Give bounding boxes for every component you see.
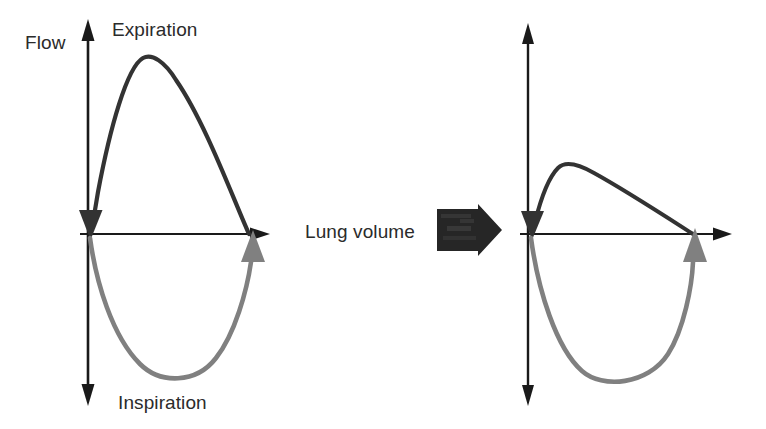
arrow-up-icon	[522, 23, 534, 44]
left-panel-normal-loop	[79, 19, 270, 406]
x-axis-label-lung-volume: Lung volume	[305, 222, 415, 241]
arrow-up-icon	[82, 19, 95, 41]
arrow-down-icon	[82, 384, 95, 406]
transition-arrow-icon	[437, 204, 502, 256]
arrow-down-icon	[522, 385, 534, 406]
expiration-label: Expiration	[112, 20, 198, 39]
y-axis-label-flow: Flow	[25, 33, 66, 52]
arrow-right-icon	[713, 228, 732, 241]
right-inspiration-curve	[531, 228, 707, 382]
expiration-arrow-down-icon	[79, 210, 103, 240]
left-expiration-curve	[79, 57, 249, 240]
flow-volume-loop-figure: Flow Expiration Lung volume Inspiration	[0, 0, 766, 429]
inspiration-label: Inspiration	[118, 393, 207, 412]
left-x-axis	[80, 228, 270, 241]
right-panel-restricted-loop	[520, 23, 732, 406]
right-x-axis	[520, 228, 732, 241]
figure-canvas	[0, 0, 766, 429]
expiration-arrow-down-icon	[521, 211, 544, 240]
right-expiration-curve	[521, 164, 693, 240]
left-inspiration-curve	[90, 230, 265, 378]
